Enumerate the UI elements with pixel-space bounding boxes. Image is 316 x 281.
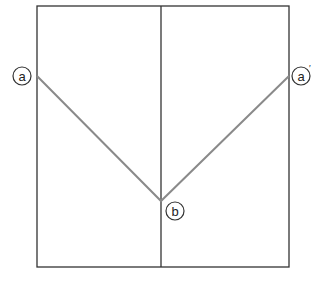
label-b: b xyxy=(166,202,184,220)
svg-text:′: ′ xyxy=(309,63,311,73)
v-fold-line xyxy=(37,76,289,201)
svg-text:a: a xyxy=(18,69,26,84)
square-frame xyxy=(37,6,289,267)
svg-text:a: a xyxy=(297,69,305,84)
fold-diagram: a a ′ b xyxy=(0,0,316,281)
label-a: a xyxy=(13,67,31,85)
label-a-prime: a ′ xyxy=(292,63,311,85)
svg-text:b: b xyxy=(171,204,178,219)
